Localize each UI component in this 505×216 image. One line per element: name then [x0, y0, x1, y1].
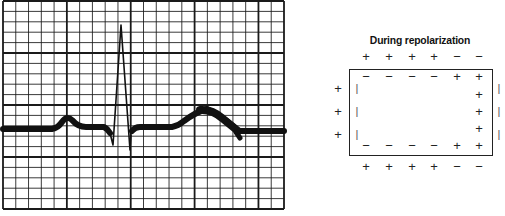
charge-sign: |: [350, 105, 364, 118]
charge-sign: −: [427, 70, 441, 83]
charge-sign: +: [382, 160, 396, 173]
charge-sign: |: [350, 82, 364, 95]
charge-sign: −: [427, 139, 441, 152]
charge-sign: |: [492, 105, 505, 118]
charge-sign: −: [472, 160, 486, 173]
charge-sign: +: [450, 139, 464, 152]
charge-sign: +: [472, 122, 486, 135]
charge-sign: −: [472, 50, 486, 63]
charge-sign: +: [359, 160, 373, 173]
charge-sign: +: [472, 70, 486, 83]
charge-sign: |: [492, 82, 505, 95]
charge-sign: +: [472, 139, 486, 152]
charge-sign: +: [331, 128, 345, 141]
charge-sign: +: [472, 105, 486, 118]
charge-sign: −: [450, 50, 464, 63]
charge-sign: −: [450, 160, 464, 173]
charge-sign: −: [359, 139, 373, 152]
charge-sign: +: [359, 50, 373, 63]
charge-sign: +: [331, 105, 345, 118]
charge-sign: +: [405, 50, 419, 63]
charge-sign: −: [405, 70, 419, 83]
charge-sign: +: [427, 160, 441, 173]
charge-sign: −: [382, 70, 396, 83]
charge-sign: −: [405, 139, 419, 152]
repolarization-diagram: During repolarization + + + + − − − − − …: [320, 0, 505, 216]
ecg-strip: [0, 0, 290, 216]
charge-sign: +: [331, 82, 345, 95]
charge-sign: −: [382, 139, 396, 152]
charge-sign: +: [427, 50, 441, 63]
charge-sign: +: [405, 160, 419, 173]
charge-sign: |: [492, 128, 505, 141]
diagram-title: During repolarization: [330, 34, 505, 46]
charge-sign: +: [472, 88, 486, 101]
ecg-grid: [3, 1, 284, 209]
charge-sign: +: [450, 70, 464, 83]
charge-sign: +: [382, 50, 396, 63]
